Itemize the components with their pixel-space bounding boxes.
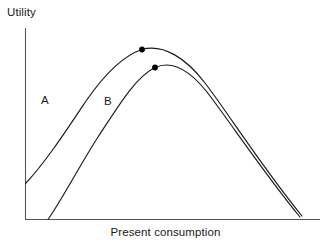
utility-consumption-chart: Utility Present consumption A B	[0, 0, 331, 248]
y-axis-label: Utility	[7, 6, 36, 19]
curve-label-b: B	[104, 95, 112, 108]
chart-plot-area	[0, 0, 331, 248]
marker-b	[152, 65, 158, 71]
curve-label-a: A	[41, 94, 49, 107]
curve-a	[26, 48, 303, 216]
curve-b	[48, 65, 300, 220]
x-axis-label: Present consumption	[0, 226, 331, 239]
marker-a	[139, 47, 145, 53]
